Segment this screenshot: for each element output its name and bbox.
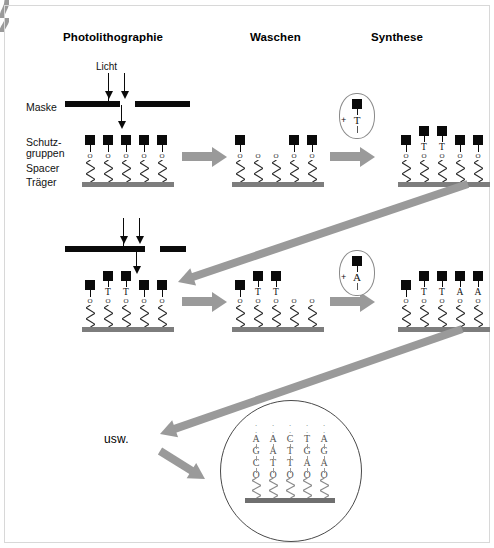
linker-o-label: O <box>233 151 247 161</box>
substrate-bar <box>232 182 324 187</box>
strand-site-2: O <box>101 125 115 182</box>
light-ray-arrowhead-2 <box>136 236 144 244</box>
assembly-row1-photolithography: OOOOO <box>82 125 174 187</box>
linker-o-label: O <box>137 296 151 306</box>
protecting-group-square <box>103 271 113 281</box>
strand-site-5: OA <box>471 270 485 327</box>
protecting-group-stem <box>240 289 241 297</box>
strand-site-3: OT <box>435 125 449 182</box>
spacer-zigzag <box>420 305 429 327</box>
protecting-group-stem <box>442 280 443 287</box>
protecting-group-square <box>103 135 113 145</box>
strand-site-2: O <box>251 125 265 182</box>
substrate-bar <box>398 182 490 187</box>
linker-o-label: O <box>155 151 169 161</box>
linker-o-label: O <box>305 296 319 306</box>
protecting-group-square <box>419 271 429 281</box>
final-base-link <box>324 468 325 473</box>
spacer-zigzag <box>290 160 299 182</box>
strand-site-2: OT <box>417 125 431 182</box>
nucleotide-a: A <box>453 287 467 298</box>
spacer-zigzag <box>402 305 411 327</box>
spacer-zigzag <box>86 160 95 182</box>
nucleotide-a: A <box>471 287 485 298</box>
final-base-link <box>307 468 308 473</box>
protecting-group-square <box>121 135 131 145</box>
spacer-zigzag <box>402 160 411 182</box>
linker-o-label: O <box>305 151 319 161</box>
nucleotide-t: T <box>101 287 115 298</box>
protecting-group-stem <box>144 144 145 152</box>
final-strand-5: OAGA···· <box>316 426 332 498</box>
reagent-protecting-group <box>352 99 362 109</box>
strand-site-2: OT <box>251 270 265 327</box>
protecting-group-square <box>139 280 149 290</box>
linker-o-label: O <box>83 296 97 306</box>
etc-label: usw. <box>104 432 129 446</box>
side-label-schutzgruppen-line1: Schutz- <box>26 137 62 148</box>
strand-site-4: O <box>137 125 151 182</box>
plus-sign: + <box>341 114 346 126</box>
spacer-zigzag <box>272 160 281 182</box>
protecting-group-square <box>289 135 299 145</box>
protecting-group-square <box>401 280 411 290</box>
linker-o-label: O <box>251 151 265 161</box>
final-strand-1: OCGA···· <box>248 426 264 498</box>
strand-site-1: O <box>399 270 413 327</box>
strand-site-3: OT <box>119 270 133 327</box>
assembly-row2-synthesis: OOTOTOAOA <box>398 270 490 332</box>
spacer-zigzag <box>104 305 113 327</box>
protecting-group-stem <box>406 144 407 152</box>
spacer-zigzag <box>254 305 263 327</box>
linker-o-label: O <box>83 151 97 161</box>
nucleotide-t: T <box>435 142 449 153</box>
spacer-zigzag <box>308 160 317 182</box>
spacer-zigzag <box>122 160 131 182</box>
linker-o-label: O <box>471 151 485 161</box>
protecting-group-square <box>157 135 167 145</box>
nucleotide-t: T <box>417 142 431 153</box>
final-base-link <box>290 468 291 473</box>
strand-site-5: O <box>305 125 319 182</box>
linker-o-label: O <box>453 151 467 161</box>
arrow-row1-wash-to-synthesis-shaft <box>330 152 360 161</box>
spacer-zigzag <box>122 305 131 327</box>
strand-site-4: O <box>137 270 151 327</box>
protecting-group-stem <box>276 280 277 287</box>
spacer-zigzag <box>290 305 299 327</box>
reagent-base-t: T <box>348 114 366 126</box>
protecting-group-square <box>307 135 317 145</box>
column-heading-waschen: Waschen <box>250 31 301 43</box>
spacer-zigzag <box>158 305 167 327</box>
protecting-group-square <box>401 135 411 145</box>
strand-site-5: O <box>305 270 319 327</box>
final-continuation-dots: ···· <box>248 422 264 450</box>
final-continuation-dots: ···· <box>265 422 281 450</box>
final-spacer-zigzag <box>252 478 261 498</box>
strand-site-5: O <box>155 125 169 182</box>
light-ray-arrowhead-1 <box>105 91 113 99</box>
final-base-link <box>324 456 325 461</box>
spacer-zigzag <box>474 160 483 182</box>
light-ray-arrowhead-2 <box>121 91 129 99</box>
final-substrate-bar <box>245 498 335 503</box>
strand-site-4: O <box>287 270 301 327</box>
protecting-group-square <box>139 135 149 145</box>
protecting-group-stem <box>162 289 163 297</box>
mask-bar-left <box>65 101 120 107</box>
protecting-group-square <box>419 126 429 136</box>
strand-site-3: O <box>269 125 283 182</box>
final-base-link <box>290 456 291 461</box>
strand-site-1: O <box>83 270 97 327</box>
final-base-link <box>256 456 257 461</box>
light-ray-line-1 <box>123 218 124 252</box>
linker-o-label: O <box>269 151 283 161</box>
strand-site-2: OT <box>101 270 115 327</box>
protecting-group-square <box>473 135 483 145</box>
side-label-maske: Maske <box>26 102 57 113</box>
nucleotide-t: T <box>417 287 431 298</box>
mask-bar-right <box>135 101 190 107</box>
protecting-group-stem <box>144 289 145 297</box>
linker-o-label: O <box>233 296 247 306</box>
final-spacer-zigzag <box>286 478 295 498</box>
